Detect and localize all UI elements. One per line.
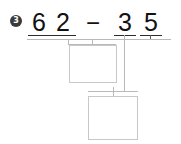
intermediate-answer-box[interactable] <box>69 45 117 83</box>
main-bracket-rule <box>27 39 171 40</box>
subtraction-worksheet-problem: 3 6 2 − 3 5 <box>0 0 181 144</box>
subtrahend-tens-digit: 3 <box>116 10 134 35</box>
minuend-ones-digit: 2 <box>54 10 72 35</box>
minus-operator: − <box>84 10 102 35</box>
subtrahend-ones-underline <box>140 35 162 36</box>
minuend-tens-digit: 6 <box>30 10 48 35</box>
final-answer-box[interactable] <box>88 96 138 140</box>
connector-right-vertical <box>124 35 125 92</box>
problem-number-badge: 3 <box>10 15 22 27</box>
minuend-underline <box>28 35 76 36</box>
subtrahend-ones-digit: 5 <box>142 10 160 35</box>
subtrahend-tens-underline <box>114 35 136 36</box>
